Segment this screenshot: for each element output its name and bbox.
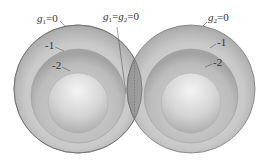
label-right-minus2: -2 bbox=[213, 56, 222, 68]
label-right-minus1: -1 bbox=[217, 36, 226, 48]
label-g2-zero: g2=0 bbox=[208, 11, 229, 25]
left-sphere bbox=[14, 25, 142, 153]
label-left-minus1: -1 bbox=[45, 39, 54, 51]
label-g1-zero: g1=0 bbox=[37, 12, 58, 26]
left-level-minus2 bbox=[48, 73, 108, 133]
right-sphere bbox=[127, 25, 255, 153]
label-intersection: g1=g2=0 bbox=[103, 10, 139, 24]
right-level-minus2 bbox=[161, 73, 221, 133]
label-left-minus2: -2 bbox=[52, 59, 61, 71]
diagram-canvas: g1=0 -1 -2 g1=g2=0 g2=0 -1 -2 bbox=[0, 0, 269, 166]
